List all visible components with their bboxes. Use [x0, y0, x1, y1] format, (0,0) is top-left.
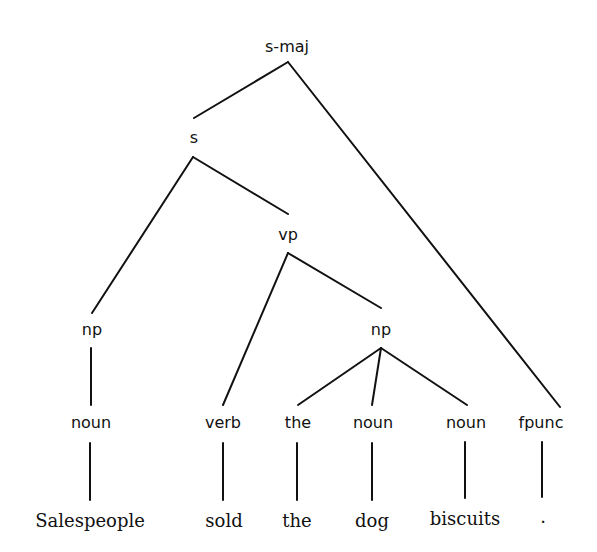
- node-vp: vp: [278, 225, 298, 244]
- word-dog: dog: [355, 510, 389, 531]
- node-np-object: np: [371, 320, 391, 339]
- edge-np-the: [298, 348, 381, 405]
- node-np-subject: np: [82, 320, 102, 339]
- edge-s-np: [92, 157, 193, 313]
- word-the: the: [282, 510, 311, 531]
- node-noun-2: noun: [353, 413, 393, 432]
- word-period: .: [540, 506, 546, 527]
- edge-vp-np: [288, 253, 381, 308]
- word-biscuits: biscuits: [430, 508, 500, 529]
- edge-vp-verb: [223, 253, 288, 405]
- edge-smaj-fpunc: [288, 62, 560, 407]
- edge-np-noun2: [372, 348, 381, 405]
- node-det-the: the: [285, 413, 311, 432]
- node-noun-3: noun: [446, 413, 486, 432]
- edge-np-noun3: [381, 348, 467, 405]
- parse-tree-edges: [0, 0, 597, 552]
- node-s: s: [190, 128, 198, 147]
- node-s-maj: s-maj: [265, 37, 309, 56]
- node-fpunc: fpunc: [519, 413, 564, 432]
- word-salespeople: Salespeople: [35, 510, 145, 531]
- node-verb: verb: [205, 413, 241, 432]
- node-noun-1: noun: [71, 413, 111, 432]
- edge-s-vp: [193, 157, 288, 214]
- edge-smaj-s: [194, 62, 288, 118]
- word-sold: sold: [205, 510, 242, 531]
